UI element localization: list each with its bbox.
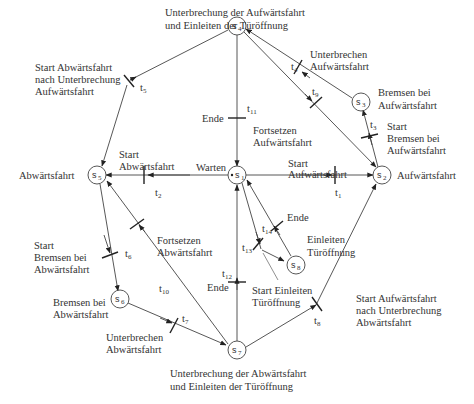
label-s6-l1: Bremsen bei (53, 297, 106, 308)
arc-s5-s6 (100, 184, 118, 291)
label-s7-l2: und Einleiten der Türöffnung (170, 381, 294, 392)
arc-t13-s8 (262, 250, 284, 261)
svg-text:t9: t9 (312, 86, 319, 99)
label-t3-l2: Bremsen bei (387, 133, 440, 144)
label-t13-l2: Türöffnung (252, 297, 301, 308)
label-t14: Ende (287, 212, 309, 223)
label-t4-l1: Unterbrechen (310, 49, 368, 60)
transition-t14[interactable] (271, 221, 283, 231)
place-s1[interactable]: s 1 (228, 166, 246, 184)
svg-text:6: 6 (121, 298, 125, 306)
label-t5-l3: Aufwärtsfahrt (35, 86, 94, 97)
label-s5: Abwärtsfahrt (19, 170, 74, 181)
label-s4-l1: Unterbrechung der Aufwärtsfahrt (165, 7, 305, 18)
place-s5[interactable]: s 5 (88, 166, 106, 184)
label-t1-l1: Start (288, 158, 308, 169)
label-s2: Aufwärtsfahrt (397, 170, 456, 181)
label-s7-l1: Unterbrechung der Abwärtsfahrt (170, 368, 307, 379)
label-t10-l1: Fortsetzen (157, 235, 201, 246)
label-t2-l1: Start (119, 149, 139, 160)
petri-net-diagram: s 1 s 2 s 3 s 4 s 5 s 6 s (0, 0, 474, 404)
svg-text:3: 3 (362, 101, 366, 109)
svg-text:5: 5 (98, 174, 102, 182)
transition-names: t1 t2 t3 t4 t5 t6 t7 t8 t9 t10 t11 t12 t… (125, 61, 377, 328)
label-t8-l3: Abwärtsfahrt (356, 317, 411, 328)
label-s4-l2: und Einleiten der Türöffnung (165, 20, 289, 31)
svg-text:2: 2 (383, 174, 387, 182)
place-s1-name: s (235, 170, 240, 180)
transition-t8[interactable] (312, 297, 322, 311)
place-s3[interactable]: s 3 (352, 93, 370, 111)
label-t1-l2: Aufwärtsfahrt (288, 169, 347, 180)
place-s2[interactable]: s 2 (373, 166, 391, 184)
place-s6[interactable]: s 6 (111, 290, 129, 308)
arc-s4-t5 (130, 30, 228, 80)
svg-text:s: s (92, 170, 97, 180)
label-t4-l2: Aufwärtsfahrt (310, 61, 369, 72)
label-t3-l1: Start (387, 121, 407, 132)
label-t9-l2: Aufwärtsfahrt (253, 137, 312, 148)
label-s8-l1: Einleiten (307, 234, 346, 245)
label-s3-l1: Bremsen bei (378, 87, 431, 98)
arc-s7-t8 (246, 305, 316, 347)
transition-t7[interactable] (170, 318, 178, 333)
label-t6-l2: Bremsen bei (34, 252, 87, 263)
svg-text:t11: t11 (247, 103, 257, 116)
svg-text:t6: t6 (125, 248, 132, 261)
label-t8-l1: Start Aufwärtsfahrt (356, 293, 437, 304)
label-s8-l2: Türöffnung (307, 247, 356, 258)
label-t9-l1: Fortsetzen (253, 125, 297, 136)
label-t6-l3: Abwärtsfahrt (34, 264, 89, 275)
label-t3-l3: Aufwärtsfahrt (387, 145, 446, 156)
arc-s8-s1 (247, 180, 291, 256)
label-t5-l2: nach Unterbrechung (35, 74, 121, 85)
token-dot-icon (231, 174, 233, 176)
label-s1: Warten (196, 162, 227, 173)
label-t2-l2: Abwärtsfahrt (119, 161, 174, 172)
label-t13-l1: Start Einleiten (252, 285, 313, 296)
arc-s4-t9 (305, 94, 312, 101)
arc-s7-t10 (139, 225, 145, 232)
arc-s4-t5-head (130, 77, 136, 80)
label-t7-l2: Abwärtsfahrt (106, 344, 161, 355)
svg-text:t5: t5 (140, 82, 147, 95)
transition-t5[interactable] (124, 75, 134, 87)
svg-text:t10: t10 (159, 283, 169, 296)
svg-text:t1: t1 (335, 187, 342, 200)
arc-s6-t7 (160, 318, 172, 323)
label-t5-l1: Start Abwärtsfahrt (35, 62, 112, 73)
svg-text:t14: t14 (262, 223, 272, 236)
svg-text:s: s (377, 170, 382, 180)
label-s3-l2: Aufwärtsfahrt (378, 100, 437, 111)
svg-text:t8: t8 (314, 315, 321, 328)
svg-text:8: 8 (297, 264, 301, 272)
label-t10-l2: Abwärtsfahrt (157, 247, 212, 258)
svg-text:s: s (115, 294, 120, 304)
arc-s3-t4 (302, 72, 310, 78)
svg-text:s: s (232, 345, 237, 355)
svg-text:t7: t7 (182, 313, 189, 326)
svg-text:1: 1 (241, 174, 245, 182)
label-t6-l1: Start (34, 240, 54, 251)
label-t7-l1: Unterbrechen (106, 332, 164, 343)
svg-text:t12: t12 (222, 268, 232, 281)
svg-text:s: s (356, 97, 361, 107)
label-s6-l2: Abwärtsfahrt (53, 309, 108, 320)
svg-text:t3: t3 (370, 119, 377, 132)
svg-text:t2: t2 (155, 187, 162, 200)
label-t8-l2: nach Unterbrechung (356, 305, 442, 316)
svg-text:t13: t13 (242, 242, 252, 255)
place-s8[interactable]: s 8 (287, 256, 305, 274)
svg-text:t4: t4 (291, 61, 298, 74)
svg-text:7: 7 (238, 349, 242, 357)
svg-text:s: s (291, 260, 296, 270)
label-t11: Ende (202, 113, 224, 124)
label-t12: Ende (207, 282, 229, 293)
place-s7[interactable]: s 7 (228, 341, 246, 359)
